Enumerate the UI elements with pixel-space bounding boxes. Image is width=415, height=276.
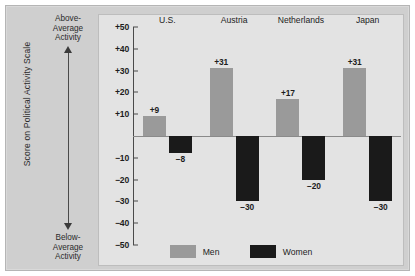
y-axis-tick-mark	[133, 70, 138, 71]
bar-value-label: −8	[163, 154, 197, 164]
bar-value-label: +31	[338, 57, 372, 67]
y-axis-tick-mark	[133, 201, 138, 202]
bar-women-netherlands	[302, 136, 325, 180]
group-label-austria: Austria	[201, 15, 268, 25]
legend-label-women: Women	[283, 247, 312, 257]
double-headed-vertical-arrow-icon	[63, 46, 74, 230]
y-axis-tick-mark	[133, 179, 138, 180]
chart-legend: Men Women	[133, 245, 401, 261]
y-axis-tick-mark	[133, 245, 138, 246]
y-axis-tick-mark	[133, 223, 138, 224]
y-axis-tick-label: +50	[115, 22, 129, 32]
y-axis-tick-mark	[133, 27, 138, 28]
bar-value-label: +9	[137, 105, 171, 115]
bar-value-label: −20	[297, 181, 331, 191]
y-axis-tick-mark	[133, 92, 138, 93]
y-axis-tick-mark	[133, 157, 138, 158]
bar-group: U.S.+9−8	[134, 27, 201, 245]
above-average-activity-label: Above- Average Activity	[53, 14, 83, 43]
bar-women-us	[169, 136, 192, 153]
y-axis-tick-mark	[133, 114, 138, 115]
bar-value-label: −30	[230, 202, 264, 212]
y-axis-tick-labels: +50+40+30+20+10−10−20−30−40−50	[99, 15, 133, 265]
bar-value-label: −30	[364, 202, 398, 212]
y-axis-title: Score on Political Activity Scale	[22, 4, 32, 204]
y-axis-tick-label: −20	[115, 175, 129, 185]
legend-swatch-men	[170, 245, 196, 258]
legend-item-men: Men	[170, 245, 220, 258]
plot-area: +50+40+30+20+10−10−20−30−40−50 U.S.+9−8A…	[98, 14, 404, 266]
bar-value-label: +31	[204, 57, 238, 67]
activity-scale-annotation: Above- Average Activity Below- Average A…	[40, 14, 96, 262]
y-axis-tick-label: +20	[115, 87, 129, 97]
y-axis-tick-label: −10	[115, 153, 129, 163]
bar-group: Austria+31−30	[201, 27, 268, 245]
legend-label-men: Men	[203, 247, 220, 257]
y-axis-tick-label: −50	[115, 240, 129, 250]
bar-men-netherlands	[276, 99, 299, 136]
bar-men-us	[143, 116, 166, 136]
y-axis-tick-label: +30	[115, 66, 129, 76]
bar-women-austria	[236, 136, 259, 201]
y-axis-tick-label: +10	[115, 109, 129, 119]
legend-item-women: Women	[250, 245, 312, 258]
bar-group: Netherlands+17−20	[268, 27, 335, 245]
y-axis-tick-label: −30	[115, 196, 129, 206]
legend-swatch-women	[250, 245, 276, 258]
bar-value-label: +17	[271, 88, 305, 98]
bar-women-japan	[369, 136, 392, 201]
group-label-japan: Japan	[334, 15, 401, 25]
group-label-us: U.S.	[134, 15, 201, 25]
y-axis-tick-label: −40	[115, 218, 129, 228]
bar-groups: U.S.+9−8Austria+31−30Netherlands+17−20Ja…	[134, 27, 401, 245]
group-label-netherlands: Netherlands	[268, 15, 335, 25]
chart-figure: Score on Political Activity Scale Above-…	[0, 0, 415, 276]
chart-panel: Score on Political Activity Scale Above-…	[5, 5, 410, 271]
y-axis-tick-label: +40	[115, 44, 129, 54]
y-axis-tick-mark	[133, 48, 138, 49]
below-average-activity-label: Below- Average Activity	[53, 233, 83, 262]
bar-men-austria	[210, 68, 233, 136]
bar-men-japan	[343, 68, 366, 136]
bar-group: Japan+31−30	[334, 27, 401, 245]
